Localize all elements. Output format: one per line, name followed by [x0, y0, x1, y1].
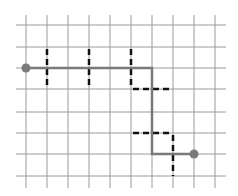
- grid-diagram: [0, 0, 238, 196]
- end-point-marker: [190, 150, 199, 159]
- grid-lines: [16, 15, 226, 188]
- start-point-marker: [22, 64, 31, 73]
- diagram-canvas: [0, 0, 238, 196]
